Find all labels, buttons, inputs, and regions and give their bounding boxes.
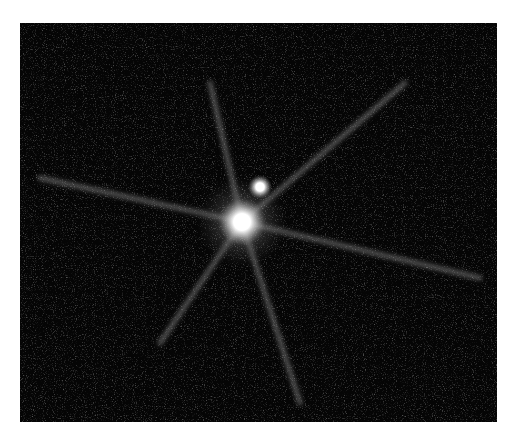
companion-star (248, 175, 272, 199)
star-field (20, 23, 497, 422)
astronomical-image (20, 23, 497, 422)
primary-star (218, 198, 266, 246)
